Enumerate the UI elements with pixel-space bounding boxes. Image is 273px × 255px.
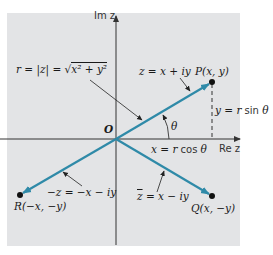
complex-plane-diagram: Im z Re z O r = |z| = √x² + y² z = x + i… bbox=[0, 0, 273, 255]
y-component-fn: sin bbox=[241, 105, 262, 116]
x-component-label: x = r cos θ bbox=[151, 144, 207, 155]
point-p-label: P(x, y) bbox=[195, 66, 229, 77]
theta-label: θ bbox=[171, 121, 177, 132]
y-component-label: y = r sin θ bbox=[215, 105, 268, 116]
point-p bbox=[209, 79, 215, 85]
modulus-abs: |z| bbox=[37, 63, 50, 75]
diagram-graphics bbox=[0, 0, 273, 255]
point-q bbox=[209, 193, 215, 199]
origin-label: O bbox=[104, 124, 113, 135]
point-q-label: Q(x, −y) bbox=[191, 203, 235, 214]
vector-z bbox=[116, 84, 209, 139]
point-r-label: R(−x, −y) bbox=[14, 201, 66, 212]
x-component-angle: θ bbox=[201, 143, 207, 155]
x-component-fn: cos bbox=[177, 144, 200, 155]
modulus-radicand: x² + y² bbox=[71, 62, 107, 75]
modulus-label: r = |z| = √x² + y² bbox=[16, 64, 107, 75]
real-axis-label: Re z bbox=[219, 144, 240, 154]
theta-arc bbox=[163, 115, 169, 139]
modulus-lhs: r = bbox=[16, 63, 37, 75]
point-r bbox=[17, 192, 23, 198]
modulus-eq: = √ bbox=[49, 63, 71, 75]
conjugate-rest: = x − iy bbox=[143, 190, 189, 202]
vector-negative-z bbox=[23, 139, 116, 193]
vector-conjugate-label: z = x − iy bbox=[137, 191, 189, 202]
imaginary-axis-label: Im z bbox=[94, 11, 115, 21]
x-component-var: x = r bbox=[151, 143, 177, 155]
leader-z bbox=[180, 78, 190, 91]
leader-conjugate bbox=[157, 171, 164, 192]
vector-negative-z-label: −z = −x − iy bbox=[47, 187, 116, 198]
vector-z-label: z = x + iy bbox=[139, 66, 191, 77]
y-component-angle: θ bbox=[262, 104, 268, 116]
y-component-var: y = r bbox=[215, 104, 241, 116]
leader-negative-z bbox=[63, 172, 82, 186]
